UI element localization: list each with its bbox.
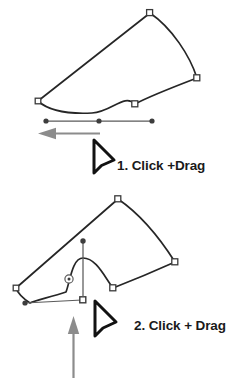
anchor-point-right [172,259,178,265]
anchor-point-corner [80,297,86,303]
shape-path-step-2 [16,199,175,303]
anchor-point-right [194,75,200,81]
handle-endpoint-right [149,118,154,123]
diagram-root: 1. Click +Drag 2. Click + Drag [0,0,239,380]
step-1-label: 1. Click +Drag [117,158,205,173]
shape-path-step-1 [38,13,197,113]
panel-step-1 [35,10,200,173]
anchor-point-left [35,98,41,104]
step-2-label: 2. Click + Drag [134,318,226,333]
anchor-point-top [147,10,153,16]
anchor-point-selected [96,118,101,123]
drag-arrow-left-icon [38,128,100,139]
anchor-point-notch [132,101,138,107]
panel-step-2 [13,196,178,378]
arrow-cursor-step-1 [94,140,114,173]
anchor-point-notch [110,285,116,291]
handle-endpoint-left [22,300,27,305]
arrow-cursor-step-2 [95,301,116,336]
handle-endpoint-up [80,238,85,243]
anchor-point-top [115,196,121,202]
convert-point-marker-icon [65,275,73,283]
drag-arrow-up-icon [68,316,79,378]
anchor-point-left [13,285,19,291]
handle-endpoint-left [43,118,48,123]
